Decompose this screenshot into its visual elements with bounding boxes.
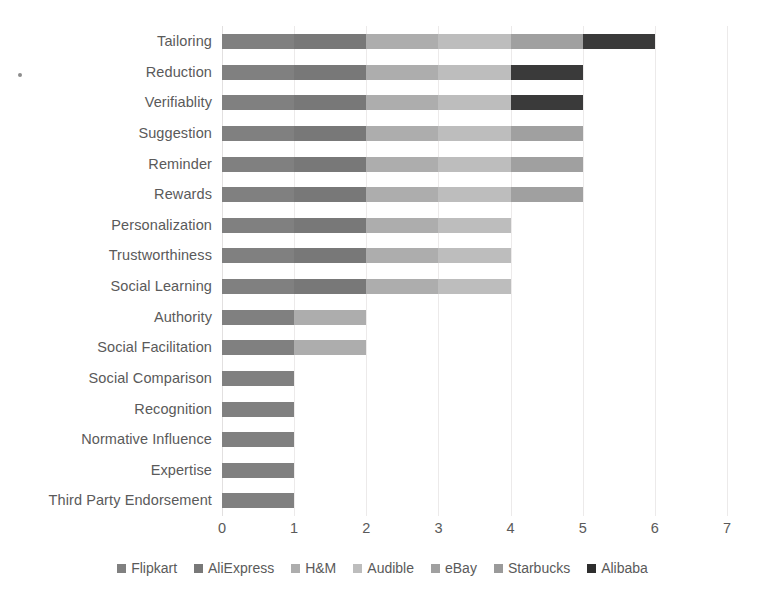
value-axis: 01234567 — [222, 516, 727, 544]
stacked-bar[interactable] — [222, 432, 294, 447]
bar-segment[interactable] — [294, 34, 366, 49]
bar-segment[interactable] — [294, 95, 366, 110]
bar-segment[interactable] — [438, 95, 510, 110]
bar-segment[interactable] — [438, 187, 510, 202]
bar-row — [222, 332, 727, 363]
bar-segment[interactable] — [294, 157, 366, 172]
bar-row — [222, 302, 727, 333]
bar-segment[interactable] — [438, 218, 510, 233]
legend-item[interactable]: AliExpress — [194, 561, 274, 575]
category-label: Personalization — [0, 210, 212, 241]
bar-segment[interactable] — [222, 463, 294, 478]
bar-segment[interactable] — [294, 310, 366, 325]
bar-segment[interactable] — [438, 248, 510, 263]
bar-row — [222, 394, 727, 425]
x-tick-label: 5 — [568, 520, 598, 536]
bar-segment[interactable] — [222, 218, 294, 233]
bar-segment[interactable] — [222, 402, 294, 417]
bar-row — [222, 210, 727, 241]
bar-segment[interactable] — [222, 95, 294, 110]
category-label: Normative Influence — [0, 424, 212, 455]
legend-label: Starbucks — [508, 561, 570, 575]
stacked-bar[interactable] — [222, 95, 583, 110]
category-label: Social Learning — [0, 271, 212, 302]
bar-segment[interactable] — [366, 126, 438, 141]
bar-segment[interactable] — [438, 126, 510, 141]
legend-item[interactable]: Alibaba — [587, 561, 648, 575]
bar-segment[interactable] — [511, 65, 583, 80]
bar-segment[interactable] — [222, 340, 294, 355]
stacked-bar[interactable] — [222, 493, 294, 508]
bar-segment[interactable] — [222, 310, 294, 325]
stacked-bar[interactable] — [222, 463, 294, 478]
bar-segment[interactable] — [222, 248, 294, 263]
bar-segment[interactable] — [222, 279, 294, 294]
bar-segment[interactable] — [511, 187, 583, 202]
bar-row — [222, 363, 727, 394]
bar-segment[interactable] — [222, 187, 294, 202]
bar-segment[interactable] — [511, 34, 583, 49]
bar-segment[interactable] — [366, 65, 438, 80]
bar-segment[interactable] — [366, 248, 438, 263]
bar-segment[interactable] — [294, 248, 366, 263]
bar-segment[interactable] — [366, 157, 438, 172]
stacked-bar[interactable] — [222, 34, 655, 49]
stacked-bar[interactable] — [222, 248, 511, 263]
bar-segment[interactable] — [294, 340, 366, 355]
stacked-bar[interactable] — [222, 310, 366, 325]
bar-segment[interactable] — [438, 65, 510, 80]
stacked-bar[interactable] — [222, 279, 511, 294]
stacked-bar[interactable] — [222, 65, 583, 80]
category-label: Rewards — [0, 179, 212, 210]
bar-segment[interactable] — [294, 218, 366, 233]
legend-item[interactable]: Flipkart — [117, 561, 177, 575]
bar-segment[interactable] — [222, 493, 294, 508]
x-tick-label: 0 — [207, 520, 237, 536]
legend-item[interactable]: H&M — [291, 561, 336, 575]
bar-segment[interactable] — [366, 34, 438, 49]
chart-legend: FlipkartAliExpressH&MAudibleeBayStarbuck… — [0, 556, 765, 580]
stacked-bar[interactable] — [222, 371, 294, 386]
bar-segment[interactable] — [511, 126, 583, 141]
bar-segment[interactable] — [366, 187, 438, 202]
stacked-bar[interactable] — [222, 126, 583, 141]
bar-segment[interactable] — [366, 95, 438, 110]
legend-item[interactable]: Starbucks — [494, 561, 570, 575]
bar-segment[interactable] — [294, 65, 366, 80]
bar-segment[interactable] — [366, 218, 438, 233]
legend-item[interactable]: Audible — [353, 561, 414, 575]
x-tick-label: 4 — [496, 520, 526, 536]
bar-segment[interactable] — [438, 34, 510, 49]
bar-segment[interactable] — [583, 34, 655, 49]
legend-swatch-icon — [431, 564, 440, 573]
bar-segment[interactable] — [366, 279, 438, 294]
x-tick-label: 7 — [712, 520, 742, 536]
stacked-bar[interactable] — [222, 218, 511, 233]
bar-segment[interactable] — [222, 126, 294, 141]
bar-segment[interactable] — [294, 187, 366, 202]
bar-segment[interactable] — [294, 279, 366, 294]
x-tick-label: 1 — [279, 520, 309, 536]
bar-segment[interactable] — [222, 34, 294, 49]
category-label: Social Facilitation — [0, 332, 212, 363]
bar-segment[interactable] — [511, 95, 583, 110]
bar-rows — [222, 26, 727, 516]
stacked-bar[interactable] — [222, 340, 366, 355]
bar-segment[interactable] — [294, 126, 366, 141]
category-axis-labels: TailoringReductionVerifiablitySuggestion… — [0, 26, 212, 516]
legend-swatch-icon — [117, 564, 126, 573]
bar-segment[interactable] — [222, 157, 294, 172]
bar-segment[interactable] — [222, 65, 294, 80]
bar-segment[interactable] — [222, 371, 294, 386]
stacked-bar[interactable] — [222, 187, 583, 202]
bar-segment[interactable] — [511, 157, 583, 172]
legend-item[interactable]: eBay — [431, 561, 477, 575]
bar-segment[interactable] — [222, 432, 294, 447]
stacked-bar[interactable] — [222, 157, 583, 172]
bar-row — [222, 118, 727, 149]
gridline-7 — [727, 26, 728, 516]
bar-row — [222, 455, 727, 486]
bar-segment[interactable] — [438, 157, 510, 172]
stacked-bar[interactable] — [222, 402, 294, 417]
bar-segment[interactable] — [438, 279, 510, 294]
